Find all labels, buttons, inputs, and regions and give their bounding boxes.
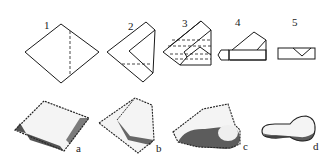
fold-step-4-shape	[218, 32, 266, 60]
fold-step-label: 5	[292, 17, 298, 28]
fold-step-5-shape	[278, 48, 315, 59]
result-b-shape	[99, 98, 154, 153]
result-label: d	[313, 141, 319, 152]
folding-diagram: 1 2 3 4 5 a b c d	[0, 0, 329, 165]
result-label: a	[76, 143, 81, 154]
fold-step-label: 1	[44, 20, 50, 31]
result-d-shape	[262, 116, 315, 141]
result-c-shape	[173, 104, 240, 149]
result-label: b	[156, 143, 162, 154]
fold-step-1-shape	[25, 24, 99, 83]
fold-step-label: 2	[128, 21, 134, 32]
result-label: c	[243, 141, 248, 152]
fold-step-label: 4	[235, 17, 241, 28]
fold-step-label: 3	[182, 18, 188, 29]
